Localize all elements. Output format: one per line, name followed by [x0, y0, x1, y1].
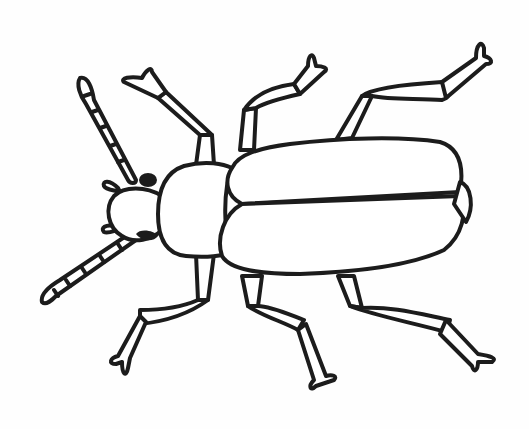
- antenna-upper: [78, 78, 136, 183]
- leg-front-bottom: [111, 254, 214, 374]
- leg-rear-top: [336, 44, 491, 140]
- beetle-drawing: [0, 0, 529, 429]
- leg-middle-bottom: [242, 276, 335, 388]
- leg-middle-top: [240, 55, 326, 150]
- antenna-lower: [42, 232, 136, 303]
- head: [108, 189, 162, 241]
- leg-front-top: [123, 69, 214, 165]
- mandible-upper: [104, 182, 120, 192]
- elytron-lower: [220, 196, 463, 274]
- beetle-illustration: Beetle line drawing: [0, 0, 529, 429]
- eye-upper: [139, 173, 157, 187]
- leg-rear-bottom: [338, 276, 494, 370]
- elytron-upper: [227, 138, 461, 204]
